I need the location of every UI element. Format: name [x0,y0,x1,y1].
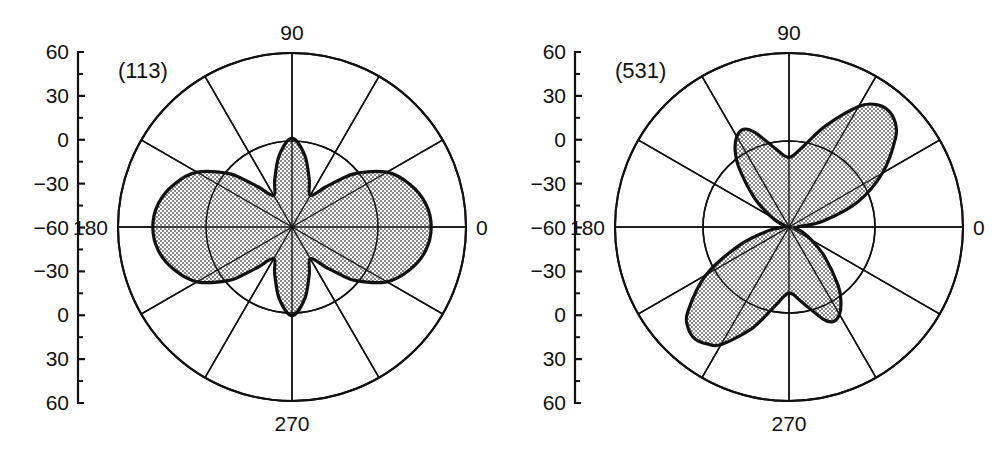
radial-tick-label: 0 [57,128,69,151]
radial-tick-label: 0 [554,128,566,151]
angle-label-270: 270 [771,412,806,435]
radial-tick-label: 60 [46,391,69,414]
angle-label-180: 180 [73,216,108,239]
radial-tick-label: −60 [530,216,566,239]
angle-label-0: 0 [973,216,985,239]
radial-tick-label: −30 [530,172,566,195]
polar-panel-2: 60300−30−60−3003060902701800(531) [497,0,994,461]
polar-figure: 60300−30−60−3003060902701800(113)60300−3… [0,0,994,461]
angle-label-270: 270 [274,412,309,435]
radial-tick-label: 30 [543,347,566,370]
radial-tick-label: −60 [33,216,69,239]
radial-tick-label: −30 [530,259,566,282]
angle-label-0: 0 [476,216,488,239]
radial-tick-label: 60 [46,40,69,63]
polar-panel-1: 60300−30−60−3003060902701800(113) [0,0,497,461]
radial-tick-label: 30 [46,84,69,107]
radial-tick-label: 0 [57,303,69,326]
radial-tick-label: 0 [554,303,566,326]
panel-id-label: (531) [615,58,666,83]
radial-tick-label: 60 [543,391,566,414]
radial-tick-label: −30 [33,172,69,195]
radial-tick-label: −30 [33,259,69,282]
angle-label-180: 180 [570,216,605,239]
angle-label-90: 90 [280,21,303,44]
angle-label-90: 90 [777,21,800,44]
radial-tick-label: 30 [543,84,566,107]
radial-tick-label: 30 [46,347,69,370]
radial-tick-label: 60 [543,40,566,63]
panel-id-label: (113) [118,58,168,83]
